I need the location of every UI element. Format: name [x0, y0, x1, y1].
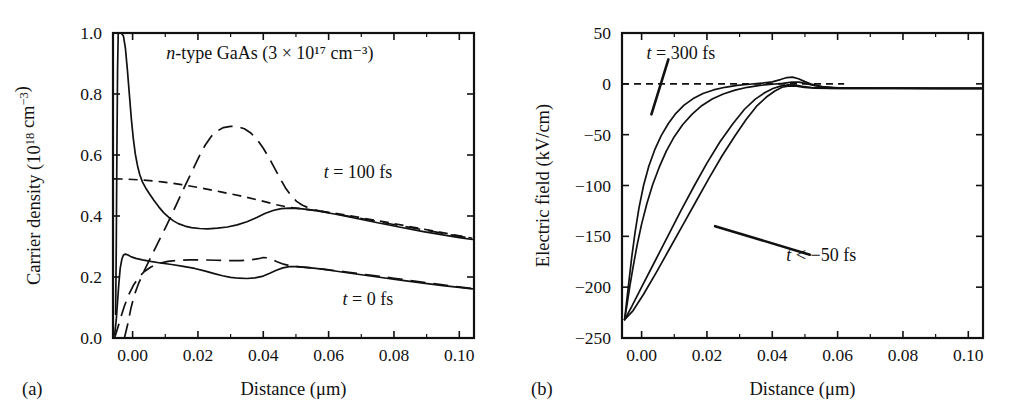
y-tick-label: −150 [575, 226, 611, 246]
leader-300fs [651, 59, 668, 114]
y-tick-label: −100 [575, 176, 611, 196]
panel-label-b: (b) [531, 379, 553, 400]
plot-frame [113, 33, 474, 338]
x-tick-label: 0.10 [444, 345, 475, 365]
x-tick-label: 0.02 [692, 345, 723, 365]
y-tick-label: 50 [594, 23, 612, 43]
y-tick-label: 0.0 [80, 328, 102, 348]
data-curve [116, 33, 473, 314]
y-tick-label: 0 [602, 74, 611, 94]
y-tick-label: −200 [575, 277, 611, 297]
data-curve [124, 126, 472, 338]
x-axis-title: Distance (μm) [750, 379, 856, 400]
data-curve [625, 85, 982, 320]
panel-a-plot: 0.000.020.040.060.080.100.00.20.40.60.81… [0, 0, 509, 415]
panel-label-a: (a) [22, 379, 43, 400]
x-tick-label: 0.06 [313, 345, 344, 365]
plot-annotation: t = 100 fs [324, 162, 393, 182]
y-axis-title: Carrier density (1018 cm−3) [12, 86, 45, 285]
plot-annotation: t < −50 fs [786, 245, 856, 265]
x-axis-title: Distance (μm) [241, 379, 347, 400]
data-curve [625, 82, 982, 319]
x-tick-label: 0.00 [117, 345, 148, 365]
y-tick-label: 0.2 [80, 267, 102, 287]
data-curve [625, 86, 982, 320]
panel-b-electric-field: 0.000.020.040.060.080.10500−50−100−150−2… [509, 0, 1018, 415]
y-tick-label: 0.4 [80, 206, 102, 226]
plot-annotation: t = 0 fs [342, 289, 393, 309]
x-tick-label: 0.00 [626, 345, 657, 365]
panel-a-carrier-density: 0.000.020.040.060.080.100.00.20.40.60.81… [0, 0, 509, 415]
x-tick-label: 0.06 [822, 345, 853, 365]
y-tick-label: 0.8 [80, 84, 102, 104]
y-tick-label: −50 [584, 125, 612, 145]
y-tick-label: 1.0 [80, 23, 102, 43]
y-tick-label: 0.6 [80, 145, 102, 165]
data-curve [115, 254, 473, 335]
y-tick-label: −250 [575, 328, 611, 348]
x-tick-label: 0.10 [953, 345, 984, 365]
x-tick-label: 0.04 [248, 345, 279, 365]
data-curve [115, 257, 473, 338]
plot-annotation: n-type GaAs (3 × 10¹⁷ cm⁻³) [166, 43, 373, 64]
x-tick-label: 0.04 [757, 345, 788, 365]
plot-annotation: t = 300 fs [646, 43, 715, 63]
y-axis-title: Electric field (kV/cm) [533, 104, 554, 267]
data-curve [625, 77, 982, 320]
x-tick-label: 0.08 [379, 345, 410, 365]
figure-root: 0.000.020.040.060.080.100.00.20.40.60.81… [0, 0, 1018, 415]
plot-frame [622, 33, 983, 338]
x-tick-label: 0.02 [183, 345, 214, 365]
panel-b-plot: 0.000.020.040.060.080.10500−50−100−150−2… [509, 0, 1018, 415]
x-tick-label: 0.08 [888, 345, 919, 365]
